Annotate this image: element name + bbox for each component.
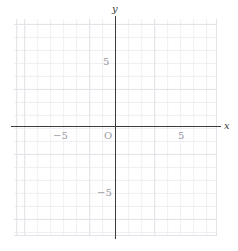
grid-border-right	[216, 19, 217, 236]
origin-label: O	[104, 131, 112, 141]
y-tick-label-5: 5	[103, 57, 109, 67]
y-axis-line	[115, 16, 116, 239]
x-axis-label: x	[224, 121, 230, 131]
coordinate-plane: y x 5 −5 5 −5 O	[0, 0, 238, 251]
y-axis-label: y	[112, 4, 118, 14]
x-tick-label-minus-5: −5	[53, 131, 68, 141]
x-tick-label-5: 5	[178, 131, 184, 141]
x-axis-line	[11, 126, 221, 127]
y-tick-label-minus-5: −5	[97, 188, 112, 198]
